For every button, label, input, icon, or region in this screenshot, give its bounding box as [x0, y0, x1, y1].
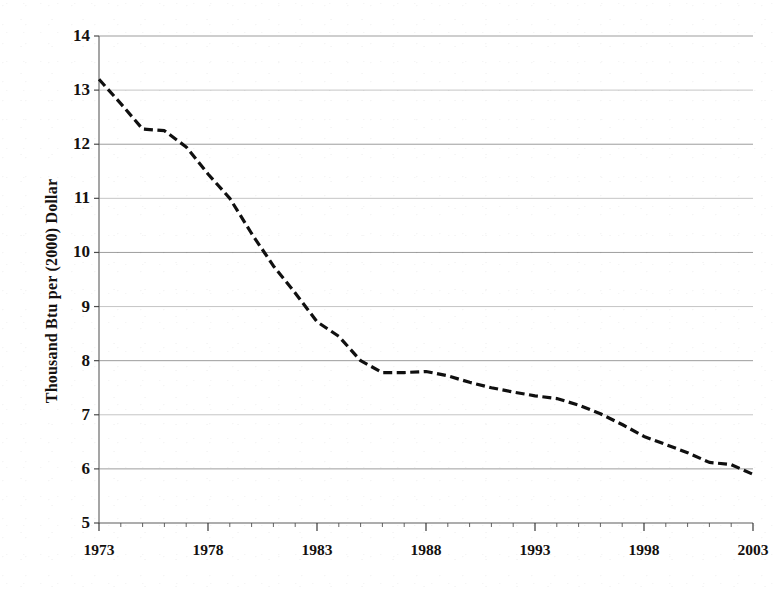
gridlines	[99, 36, 753, 469]
x-tick-label-1973: 1973	[64, 541, 134, 559]
chart-container: Thousand Btu per (2000) Dollar 567891011…	[0, 0, 783, 589]
plot-area	[0, 0, 783, 589]
x-tick-label-2003: 2003	[718, 541, 783, 559]
axis-lines	[94, 36, 753, 523]
x-tick-label-1983: 1983	[282, 541, 352, 559]
x-axis-major-ticks	[99, 523, 753, 531]
x-tick-label-1978: 1978	[173, 541, 243, 559]
x-tick-label-1988: 1988	[391, 541, 461, 559]
x-tick-label-1998: 1998	[609, 541, 679, 559]
x-tick-label-1993: 1993	[500, 541, 570, 559]
